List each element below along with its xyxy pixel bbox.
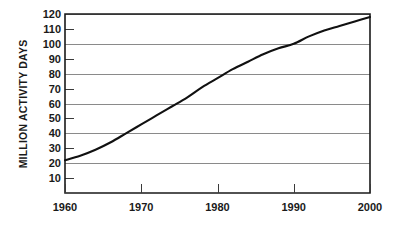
y-axis-title-group: MILLION ACTIVITY DAYS [17, 40, 29, 169]
y-tick-label-60: 60 [49, 98, 61, 110]
y-tick-label-120: 120 [43, 8, 61, 20]
x-tick-label-1990: 1990 [282, 201, 306, 213]
x-tick-label-1980: 1980 [205, 201, 229, 213]
line-chart: 102030405060708090100110120 196019701980… [0, 0, 395, 233]
y-tick-label-70: 70 [49, 83, 61, 95]
y-tick-label-100: 100 [43, 38, 61, 50]
y-tick-label-10: 10 [49, 172, 61, 184]
y-tick-label-80: 80 [49, 68, 61, 80]
y-tick-label-90: 90 [49, 53, 61, 65]
x-tick-label-2000: 2000 [358, 201, 382, 213]
y-tick-label-30: 30 [49, 142, 61, 154]
plot-background [65, 14, 370, 193]
x-tick-label-1960: 1960 [53, 201, 77, 213]
y-axis-title: MILLION ACTIVITY DAYS [17, 40, 29, 169]
x-tick-labels-group: 19601970198019902000 [53, 201, 382, 213]
y-tick-label-20: 20 [49, 157, 61, 169]
y-tick-label-50: 50 [49, 112, 61, 124]
chart-container: 102030405060708090100110120 196019701980… [0, 0, 395, 233]
y-tick-label-110: 110 [43, 23, 61, 35]
y-tick-label-40: 40 [49, 127, 61, 139]
x-tick-label-1970: 1970 [129, 201, 153, 213]
y-tick-labels-group: 102030405060708090100110120 [43, 8, 61, 184]
